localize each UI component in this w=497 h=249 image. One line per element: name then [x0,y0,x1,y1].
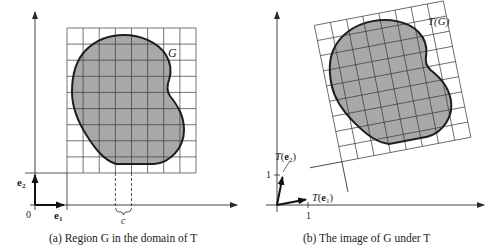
ext-line-bottom [310,162,342,168]
ext-line-left [342,162,348,192]
te2-label: T(e2) [275,151,297,164]
e2-label: e2 [17,176,26,190]
cell-brace [116,208,132,215]
caption-b: (b) The image of G under T [303,232,430,245]
te1-vector [277,199,306,205]
region-g-label: G [168,46,177,60]
region-tg-label: T(G) [428,15,450,28]
te1-label: T(e1) [312,192,334,205]
origin-label: 0 [26,209,31,220]
caption-a: (a) Region G in the domain of T [49,232,197,245]
transformed-grid-group [282,1,477,198]
e1-label: e1 [54,209,63,223]
te2-vector [277,177,283,205]
panel-a: G e2 e1 0 c (a) Region G in the domain o… [17,12,237,245]
panel-b: T(G) T(e2) T(e1) 1 1 (b) The image of G … [266,1,484,245]
tick-y-label: 1 [266,169,271,180]
cell-label: c [121,215,126,226]
tick-x-label: 1 [306,210,311,221]
